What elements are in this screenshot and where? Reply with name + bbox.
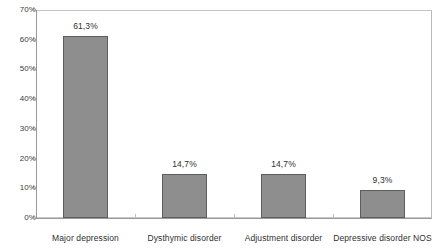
bar-value-label: 61,3% [46,22,126,31]
y-axis-tick [32,129,36,130]
y-axis-tick [32,218,36,219]
x-axis-separator [333,214,334,218]
bars-layer: 61,3%Major depression14,7%Dysthymic diso… [0,0,444,252]
x-axis-category-label: Depressive disorder NOS [323,233,443,243]
bar-value-label: 14,7% [145,160,225,169]
bar-chart: 0%10%20%30%40%50%60%70% 61,3%Major depre… [0,0,444,252]
bar-value-label: 14,7% [244,160,324,169]
y-axis-tick [32,159,36,160]
x-axis-separator [234,214,235,218]
x-axis-separator [135,214,136,218]
y-axis-tick [32,69,36,70]
y-axis-tick [32,188,36,189]
bar [63,36,108,218]
bar [261,174,306,218]
bar-value-label: 9,3% [343,176,423,185]
bar [360,190,405,218]
y-axis-tick [32,40,36,41]
bar [162,174,207,218]
y-axis-tick [32,10,36,11]
y-axis-tick [32,99,36,100]
